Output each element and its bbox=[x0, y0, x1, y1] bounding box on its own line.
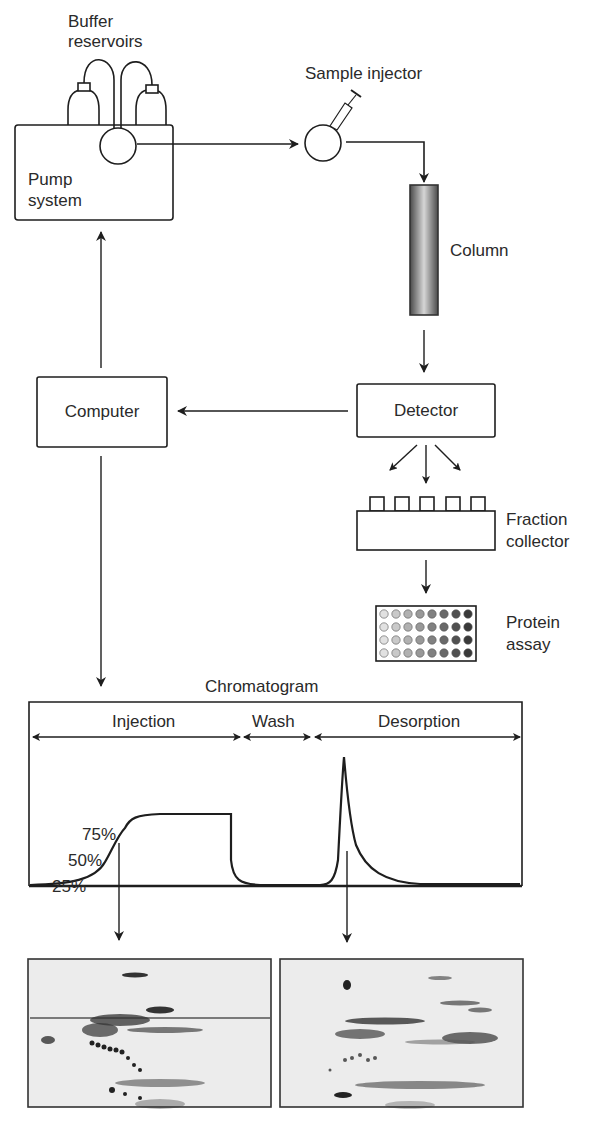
assay-well bbox=[404, 636, 412, 644]
column-icon bbox=[410, 185, 438, 315]
assay-well bbox=[416, 636, 424, 644]
assay-well bbox=[440, 623, 448, 631]
fraction-label-line2: collector bbox=[506, 531, 569, 553]
assay-well bbox=[440, 636, 448, 644]
assay-well bbox=[428, 623, 436, 631]
assay-well bbox=[428, 649, 436, 657]
assay-well bbox=[392, 623, 400, 631]
assay-well bbox=[464, 610, 472, 618]
assay-well bbox=[464, 623, 472, 631]
pump-system-label: Pump system bbox=[28, 169, 82, 211]
column-label: Column bbox=[450, 240, 509, 261]
chromatography-diagram bbox=[0, 0, 605, 1123]
assay-well bbox=[440, 610, 448, 618]
pump-icon bbox=[100, 128, 136, 164]
fraction-label-line1: Fraction bbox=[506, 509, 569, 531]
assay-well bbox=[428, 636, 436, 644]
protein-assay-plate-icon bbox=[376, 606, 476, 661]
syringe-icon bbox=[330, 90, 361, 130]
breakthrough-75-label: 75% bbox=[82, 824, 116, 845]
computer-label: Computer bbox=[37, 401, 167, 422]
assay-well bbox=[392, 610, 400, 618]
breakthrough-50-label: 50% bbox=[68, 850, 102, 871]
protein-assay-label: Protein assay bbox=[506, 612, 560, 656]
detector-label: Detector bbox=[357, 400, 495, 421]
fraction-collector-label: Fraction collector bbox=[506, 509, 569, 553]
buffer-label-line1: Buffer bbox=[68, 12, 143, 32]
assay-well bbox=[452, 649, 460, 657]
sample-injector-icon bbox=[305, 125, 341, 161]
phase-desorption-label: Desorption bbox=[378, 711, 460, 732]
assay-well bbox=[452, 623, 460, 631]
buffer-reservoir-left-icon bbox=[68, 83, 99, 125]
assay-well bbox=[404, 649, 412, 657]
assay-well bbox=[404, 623, 412, 631]
buffer-label-line2: reservoirs bbox=[68, 32, 143, 52]
buffer-reservoirs-label: Buffer reservoirs bbox=[68, 12, 143, 52]
assay-well bbox=[464, 636, 472, 644]
gel-injection bbox=[28, 959, 271, 1109]
assay-well bbox=[392, 649, 400, 657]
assay-well bbox=[452, 636, 460, 644]
breakthrough-25-label: 25% bbox=[52, 876, 86, 897]
pump-label-line2: system bbox=[28, 190, 82, 211]
assay-well bbox=[392, 636, 400, 644]
gel-desorption bbox=[280, 959, 523, 1109]
assay-label-line1: Protein bbox=[506, 612, 560, 634]
assay-well bbox=[380, 636, 388, 644]
assay-well bbox=[416, 623, 424, 631]
chromatogram-title: Chromatogram bbox=[205, 676, 318, 697]
assay-well bbox=[428, 610, 436, 618]
assay-well bbox=[464, 649, 472, 657]
assay-well bbox=[416, 649, 424, 657]
pump-label-line1: Pump bbox=[28, 169, 82, 190]
assay-well bbox=[440, 649, 448, 657]
fraction-collector-icon bbox=[357, 497, 495, 550]
phase-injection-label: Injection bbox=[112, 711, 175, 732]
assay-well bbox=[416, 610, 424, 618]
assay-label-line2: assay bbox=[506, 634, 560, 656]
chromatogram-trace bbox=[30, 757, 520, 885]
assay-well bbox=[404, 610, 412, 618]
assay-well bbox=[380, 649, 388, 657]
assay-well bbox=[452, 610, 460, 618]
assay-well bbox=[380, 623, 388, 631]
assay-well bbox=[380, 610, 388, 618]
buffer-reservoir-right-icon bbox=[136, 85, 166, 125]
phase-wash-label: Wash bbox=[252, 711, 295, 732]
sample-injector-label: Sample injector bbox=[305, 63, 422, 84]
